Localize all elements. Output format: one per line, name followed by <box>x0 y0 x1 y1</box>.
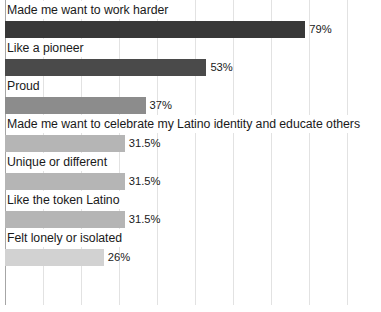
bar <box>5 59 206 76</box>
category-label: Like the token Latino <box>7 191 121 209</box>
chart-row: Made me want to celebrate my Latino iden… <box>0 114 381 152</box>
bar-chart: Made me want to work harder79%Like a pio… <box>0 0 381 312</box>
bar <box>5 135 125 152</box>
category-label: Felt lonely or isolated <box>7 229 124 247</box>
category-label: Made me want to celebrate my Latino iden… <box>7 115 362 133</box>
chart-row: Unique or different31.5% <box>0 152 381 190</box>
category-label: Unique or different <box>7 153 109 171</box>
chart-row: Proud37% <box>0 76 381 114</box>
chart-row: Like the token Latino31.5% <box>0 190 381 228</box>
bar-value-label: 53% <box>206 59 232 76</box>
bar <box>5 211 125 228</box>
category-label: Made me want to work harder <box>7 1 170 19</box>
bar-value-label: 26% <box>104 249 130 266</box>
chart-row: Like a pioneer53% <box>0 38 381 76</box>
bar <box>5 173 125 190</box>
category-label: Like a pioneer <box>7 39 86 57</box>
chart-row: Felt lonely or isolated26% <box>0 228 381 266</box>
category-label: Proud <box>7 77 42 95</box>
bar <box>5 97 146 114</box>
bar <box>5 21 305 38</box>
bar <box>5 249 104 266</box>
bar-value-label: 31.5% <box>125 211 161 228</box>
bar-value-label: 31.5% <box>125 135 161 152</box>
bar-value-label: 37% <box>146 97 172 114</box>
bar-value-label: 79% <box>305 21 331 38</box>
bar-value-label: 31.5% <box>125 173 161 190</box>
chart-rows: Made me want to work harder79%Like a pio… <box>0 0 381 266</box>
chart-row: Made me want to work harder79% <box>0 0 381 38</box>
